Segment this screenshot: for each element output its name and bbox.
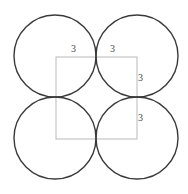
dimension-label-right-lower: 3: [138, 113, 143, 123]
geometry-diagram: 3 3 3 3: [0, 0, 188, 194]
diagram-background: [0, 0, 188, 194]
dimension-label-top-left: 3: [71, 44, 76, 54]
dimension-label-right-upper: 3: [138, 73, 143, 83]
dimension-label-top-right: 3: [110, 44, 115, 54]
diagram-canvas: [0, 0, 188, 194]
